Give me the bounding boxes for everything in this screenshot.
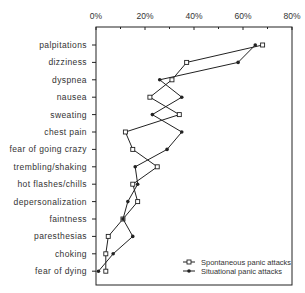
dot-marker [97,269,101,273]
category-label: sweating [50,110,87,120]
x-tick-label: 0% [90,11,103,21]
category-label: depersonalization [14,197,87,207]
category-label: trembling/shaking [14,162,87,172]
legend-label: Situational panic attacks [201,267,282,276]
dot-marker [126,200,130,204]
square-marker [106,234,110,238]
dot-marker [158,78,162,82]
x-tick-label: 40% [185,11,202,21]
square-marker [131,147,135,151]
series-line [106,45,263,271]
square-marker [104,269,108,273]
dot-marker [236,61,240,65]
legend-square-icon [187,260,191,264]
category-label: fear of going crazy [9,144,87,154]
plot-frame [96,27,292,285]
category-label: palpitations [39,40,87,50]
x-tick-label: 20% [136,11,153,21]
dot-marker [121,217,125,221]
category-label: chest pain [44,127,87,137]
series-lines [97,43,265,273]
square-marker [185,60,189,64]
square-marker [155,165,159,169]
square-marker [136,200,140,204]
legend: Spontaneous panic attacksSituational pan… [183,258,291,276]
square-marker [177,113,181,117]
series-line [99,45,256,271]
dot-marker [136,182,140,186]
dot-marker [165,148,169,152]
category-labels: palpitationsdizzinessdyspneanauseasweati… [9,40,96,276]
square-marker [170,78,174,82]
dot-marker [151,113,155,117]
square-marker [261,43,265,47]
legend-label: Spontaneous panic attacks [201,258,291,267]
category-label: fear of dying [35,266,87,276]
symptom-chart: 0%20%40%60%80% palpitationsdizzinessdysp… [0,0,305,293]
legend-dot-icon [187,269,191,273]
category-label: nausea [57,92,87,102]
category-label: faintness [49,214,87,224]
x-tick-label: 60% [234,11,251,21]
dot-marker [180,95,184,99]
category-label: paresthesias [34,231,87,241]
square-marker [104,252,108,256]
category-label: hot flashes/chills [17,179,87,189]
dot-marker [131,235,135,239]
dot-marker [180,130,184,134]
square-marker [123,130,127,134]
dot-marker [111,252,115,256]
square-marker [148,95,152,99]
category-label: dyspnea [52,75,87,85]
axes [96,27,292,285]
dot-marker [133,165,137,169]
category-label: dizziness [48,57,87,67]
category-label: choking [55,249,87,259]
x-tick-label: 80% [283,11,300,21]
square-marker [131,182,135,186]
dot-marker [253,43,257,47]
